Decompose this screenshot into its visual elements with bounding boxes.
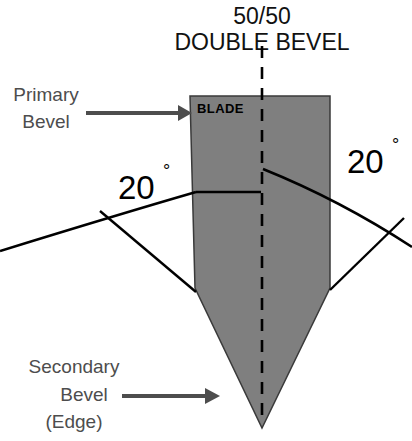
secondary-bevel-label-line2: Bevel <box>60 384 108 405</box>
left-angle-value: 20 <box>118 169 155 206</box>
primary-bevel-label-line1: Primary <box>13 84 79 105</box>
right-angle-degree-symbol: ° <box>392 135 399 155</box>
secondary-bevel-label-line3: (Edge) <box>45 411 102 432</box>
double-bevel-diagram: 50/50 DOUBLE BEVEL BLADE 20 ° 20 ° Prima… <box>0 0 412 441</box>
diagram-canvas: 50/50 DOUBLE BEVEL BLADE 20 ° 20 ° Prima… <box>0 0 412 441</box>
left-angle-degree-symbol: ° <box>163 161 170 181</box>
blade-label: BLADE <box>197 101 244 116</box>
secondary-bevel-label-line1: Secondary <box>29 356 120 377</box>
primary-bevel-label-line2: Bevel <box>22 111 70 132</box>
right-angle-value: 20 <box>347 143 384 180</box>
title-ratio: 50/50 <box>233 3 291 29</box>
